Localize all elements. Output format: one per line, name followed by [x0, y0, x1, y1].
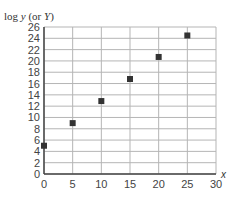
scatter-chart: 02468101214161820222426 051015202530 x [0, 0, 238, 202]
data-point [70, 120, 76, 126]
y-tick-label: 8 [34, 123, 40, 135]
y-tick-labels: 02468101214161820222426 [28, 21, 40, 180]
y-tick-label: 24 [28, 32, 40, 44]
y-tick-label: 6 [34, 134, 40, 146]
y-tick-label: 26 [28, 21, 40, 33]
data-point [127, 76, 133, 82]
y-tick-label: 22 [28, 44, 40, 56]
x-tick-label: 15 [124, 178, 136, 190]
x-tick-label: 10 [95, 178, 107, 190]
x-tick-labels: 051015202530 [41, 178, 222, 190]
y-tick-label: 2 [34, 157, 40, 169]
x-tick-label: 25 [181, 178, 193, 190]
data-point [184, 32, 190, 38]
y-tick-label: 10 [28, 111, 40, 123]
y-tick-label: 18 [28, 66, 40, 78]
y-tick-label: 16 [28, 78, 40, 90]
x-axis-label: x [220, 169, 227, 180]
y-tick-label: 12 [28, 100, 40, 112]
data-point [41, 143, 47, 149]
y-tick-label: 20 [28, 55, 40, 67]
x-tick-label: 0 [41, 178, 47, 190]
y-tick-label: 0 [34, 168, 40, 180]
x-tick-label: 20 [153, 178, 165, 190]
grid-lines [44, 27, 216, 174]
y-tick-label: 4 [34, 145, 40, 157]
x-tick-label: 5 [70, 178, 76, 190]
data-point [156, 54, 162, 60]
y-tick-label: 14 [28, 89, 40, 101]
data-point [98, 98, 104, 104]
